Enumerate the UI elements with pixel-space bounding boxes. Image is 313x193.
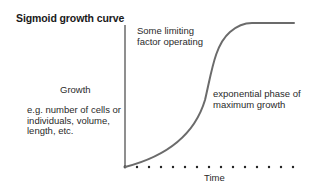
- sigmoid-plot: [0, 0, 313, 193]
- x-axis-dots: [124, 166, 295, 169]
- sigmoid-curve: [125, 23, 294, 167]
